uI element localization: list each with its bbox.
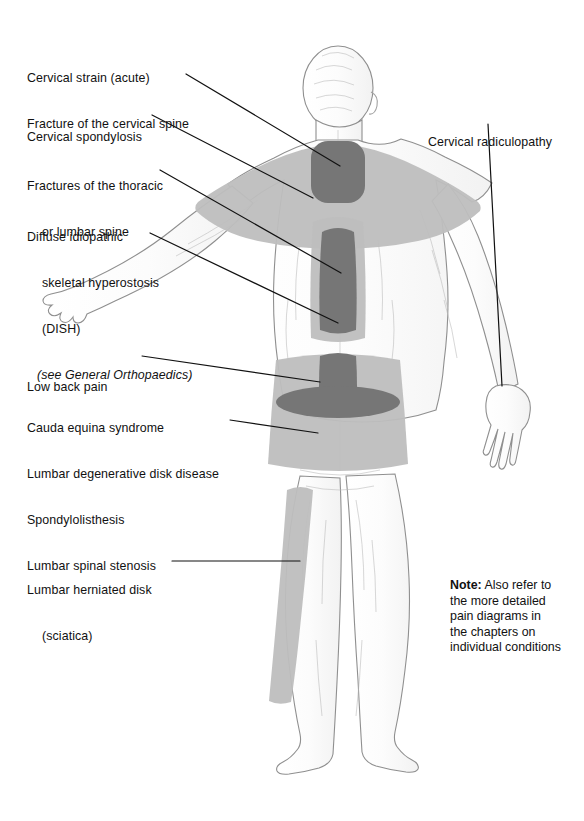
label-line: Cauda equina syndrome [27, 421, 219, 436]
pain-zone-cervical-neck [311, 141, 365, 203]
label-lumbar-herniated-disk: Lumbar herniated disk (sciatica) [27, 552, 152, 675]
label-line: Spondylolisthesis [27, 513, 219, 528]
label-cervical-radiculopathy: Cervical radiculopathy [428, 104, 552, 181]
right-hand [483, 385, 530, 469]
note-line: pain diagrams in [450, 609, 541, 623]
label-line: skeletal hyperostosis [27, 276, 193, 291]
pain-zone-thoracic-spine [319, 228, 356, 334]
label-line: (DISH) [27, 322, 193, 337]
label-line: Lumbar degenerative disk disease [27, 467, 219, 482]
right-leg [346, 474, 418, 772]
label-line: Cervical radiculopathy [428, 135, 552, 150]
label-line: Cervical spondylosis [27, 130, 142, 145]
label-line: (sciatica) [27, 629, 152, 644]
note-line: individual conditions [450, 640, 561, 654]
label-line: Cervical strain (acute) [27, 71, 189, 86]
label-line: Fractures of the thoracic [27, 179, 163, 194]
note-line: the more detailed [450, 594, 546, 608]
head [303, 46, 373, 130]
note-label: Note: [450, 578, 482, 592]
note-line: the chapters on [450, 625, 535, 639]
label-line: Lumbar herniated disk [27, 583, 152, 598]
note-line: Also refer to [482, 578, 552, 592]
note-block: Note: Also refer to the more detailed pa… [450, 578, 580, 656]
label-line: Diffuse idiopathic [27, 230, 193, 245]
pain-zone-low-back-band [276, 386, 400, 418]
diagram-canvas: Cervical strain (acute) Fracture of the … [0, 0, 584, 821]
